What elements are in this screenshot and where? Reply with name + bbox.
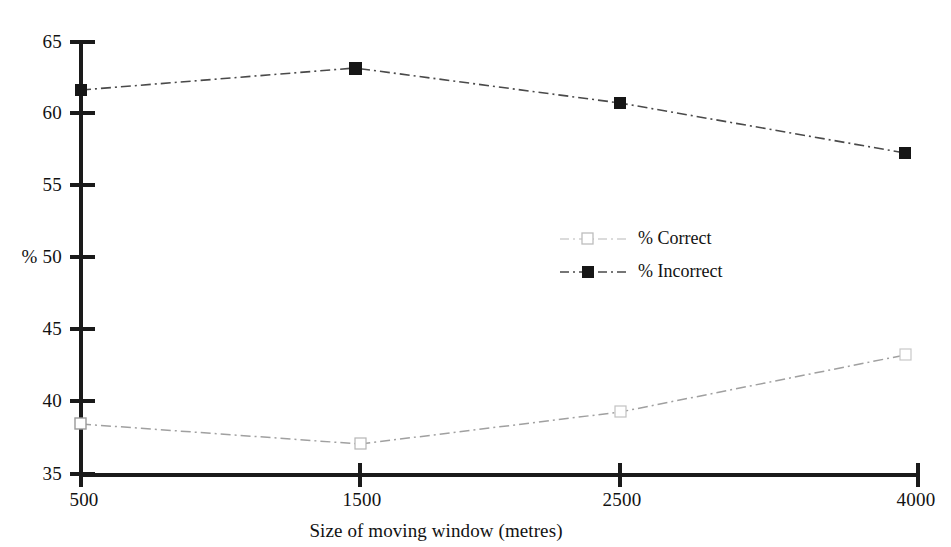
legend-label-correct: % Correct <box>638 228 711 249</box>
legend-marker-incorrect-icon <box>560 264 628 280</box>
data-point-incorrect-2500 <box>614 97 626 109</box>
y-tick-label-55: 55 <box>0 174 62 196</box>
x-tick-label-4000: 4000 <box>897 489 936 511</box>
y-tick-label-35: 35 <box>0 463 62 485</box>
data-point-incorrect-1500 <box>349 62 362 75</box>
y-tick-label-40: 40 <box>0 390 62 412</box>
legend-item-correct: % Correct <box>560 228 711 249</box>
plot-area <box>0 0 951 547</box>
series-markers-incorrect <box>75 62 911 159</box>
x-tick-label-500: 500 <box>69 489 98 511</box>
data-point-correct-500 <box>75 418 86 429</box>
data-point-correct-4000 <box>900 349 911 360</box>
data-point-correct-2500 <box>615 406 626 417</box>
y-tick-label-65: 65 <box>0 31 62 53</box>
y-tick-label-45: 45 <box>0 318 62 340</box>
x-tick-label-1500: 1500 <box>343 489 382 511</box>
data-point-incorrect-4000 <box>899 147 911 159</box>
series-markers-correct <box>75 349 911 449</box>
data-point-correct-1500 <box>355 438 366 449</box>
series-line-incorrect <box>81 68 905 153</box>
x-axis-title: Size of moving window (metres) <box>309 520 562 542</box>
x-tick-label-2500: 2500 <box>603 489 642 511</box>
series-line-correct <box>81 355 905 444</box>
y-tick-label-60: 60 <box>0 102 62 124</box>
legend-label-incorrect: % Incorrect <box>638 261 722 282</box>
chart-figure: 65 60 55 % 50 45 40 35 500 1500 2500 400… <box>0 0 951 547</box>
legend-marker-correct-icon <box>560 231 628 247</box>
legend-item-incorrect: % Incorrect <box>560 261 722 282</box>
y-axis-label-and-tick-50: % 50 <box>0 246 62 268</box>
data-point-incorrect-500 <box>75 84 87 96</box>
